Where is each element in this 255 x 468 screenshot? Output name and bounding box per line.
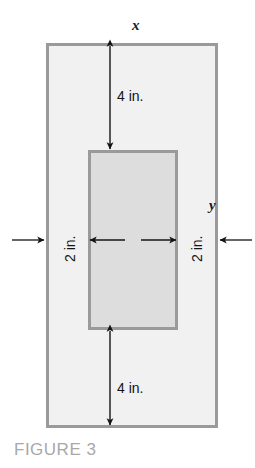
left-margin-label: 2 in.: [63, 236, 77, 262]
top-margin-label: 4 in.: [117, 89, 143, 103]
height-variable-label-y: y: [209, 198, 216, 213]
figure-3-diagram: x y 4 in. 4 in. 2 in. 2 in.: [0, 0, 255, 468]
width-variable-label-x: x: [132, 18, 140, 33]
bottom-margin-label: 4 in.: [117, 381, 143, 395]
right-margin-label: 2 in.: [190, 236, 204, 262]
inner-rectangle-printed-area: [88, 150, 178, 330]
figure-caption: FIGURE 3: [14, 441, 96, 458]
